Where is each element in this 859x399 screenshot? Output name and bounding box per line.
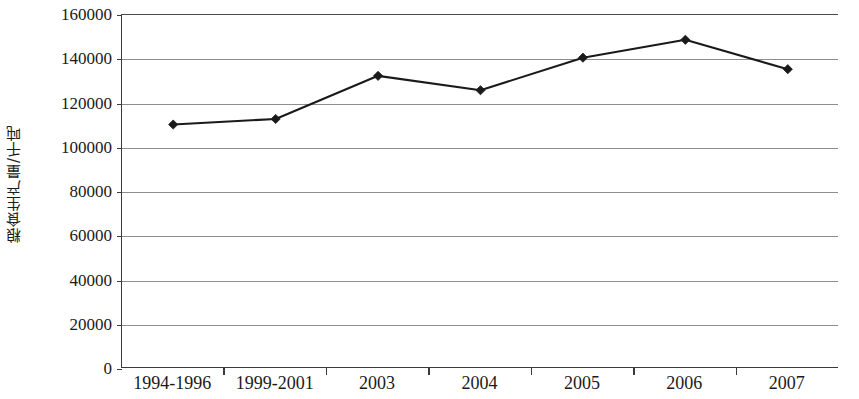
data-point-marker <box>476 86 485 95</box>
y-axis-tick-label: 120000 <box>61 94 112 111</box>
line-chart: 粮食生产量/千吨 0200004000060000800001000001200… <box>0 0 859 399</box>
data-point-marker <box>373 71 382 80</box>
y-axis-tick-label: 60000 <box>70 227 113 244</box>
x-axis-tick-label: 2007 <box>769 374 805 394</box>
x-axis-tick-label: 2004 <box>462 374 498 394</box>
data-point-marker <box>681 35 690 44</box>
x-axis-tick-label: 2005 <box>564 374 600 394</box>
series-line <box>173 40 788 125</box>
y-axis-tick-label: 40000 <box>70 271 113 288</box>
y-axis-tick-label: 0 <box>104 360 113 377</box>
y-axis-tick-label: 80000 <box>70 183 113 200</box>
y-axis-tick-label: 140000 <box>61 50 112 67</box>
x-axis-tick-label: 2006 <box>666 374 702 394</box>
data-point-marker <box>783 65 792 74</box>
data-point-marker <box>169 120 178 129</box>
y-axis-title-label: 粮食生产量/千吨 <box>3 125 24 243</box>
x-axis-tick-label: 1999-2001 <box>236 374 314 394</box>
x-axis-tick-labels: 1994-19961999-200120032004200520062007 <box>121 374 838 399</box>
y-axis-title: 粮食生产量/千吨 <box>0 0 26 368</box>
plot-area <box>121 14 838 368</box>
y-axis-tick-labels: 0200004000060000800001000001200001400001… <box>26 0 118 399</box>
y-axis-tick-label: 160000 <box>61 6 112 23</box>
data-point-marker <box>271 114 280 123</box>
data-series <box>122 15 839 369</box>
y-axis-tick-label: 20000 <box>70 315 113 332</box>
x-axis-tick-label: 2003 <box>359 374 395 394</box>
x-axis-tick-label: 1994-1996 <box>133 374 211 394</box>
data-point-marker <box>578 53 587 62</box>
y-axis-tick-label: 100000 <box>61 138 112 155</box>
